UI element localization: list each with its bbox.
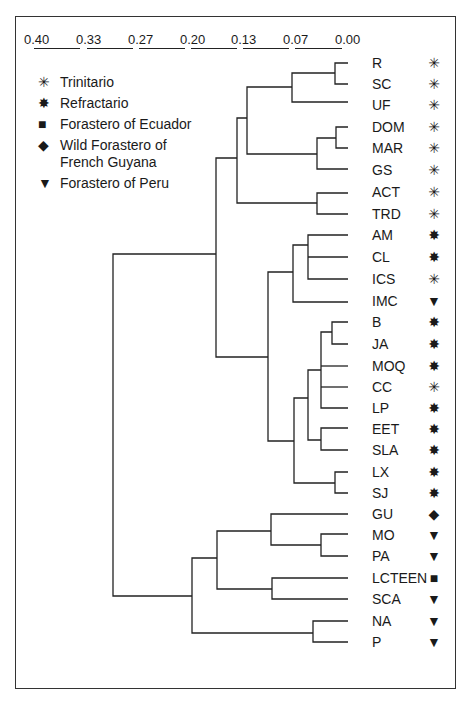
leaf-label-imc: IMC <box>372 293 398 309</box>
filled-star-icon: ✸ <box>426 314 442 330</box>
open-asterisk-icon: ✳ <box>426 206 442 222</box>
leaf-label-eet: EET <box>372 421 399 437</box>
open-asterisk-icon: ✳ <box>426 119 442 135</box>
leaf-label-ics: ICS <box>372 271 395 287</box>
leaf-label-cc: CC <box>372 379 392 395</box>
leaf-label-moq: MOQ <box>372 358 405 374</box>
leaf-label-mar: MAR <box>372 140 403 156</box>
leaf-label-cl: CL <box>372 249 390 265</box>
down-triangle-icon: ▼ <box>426 527 442 543</box>
down-triangle-icon: ▼ <box>426 613 442 629</box>
leaf-label-dom: DOM <box>372 119 405 135</box>
leaf-label-sc: SC <box>372 76 391 92</box>
filled-star-icon: ✸ <box>426 227 442 243</box>
leaf-label-mo: MO <box>372 527 395 543</box>
open-asterisk-icon: ✳ <box>426 162 442 178</box>
filled-star-icon: ✸ <box>426 249 442 265</box>
leaf-label-trd: TRD <box>372 206 401 222</box>
leaf-label-b: B <box>372 314 381 330</box>
down-triangle-icon: ▼ <box>426 548 442 564</box>
filled-star-icon: ✸ <box>426 464 442 480</box>
filled-star-icon: ✸ <box>426 421 442 437</box>
filled-star-icon: ✸ <box>426 485 442 501</box>
down-triangle-icon: ▼ <box>426 634 442 650</box>
leaf-label-sj: SJ <box>372 485 388 501</box>
open-asterisk-icon: ✳ <box>426 271 442 287</box>
open-asterisk-icon: ✳ <box>426 140 442 156</box>
filled-star-icon: ✸ <box>426 336 442 352</box>
leaf-label-sla: SLA <box>372 442 398 458</box>
leaf-label-r: R <box>372 55 382 71</box>
leaf-label-p: P <box>372 634 381 650</box>
leaf-label-sca: SCA <box>372 591 401 607</box>
down-triangle-icon: ▼ <box>426 591 442 607</box>
down-triangle-icon: ▼ <box>426 293 442 309</box>
leaf-label-uf: UF <box>372 97 391 113</box>
leaf-label-pa: PA <box>372 548 390 564</box>
leaf-label-na: NA <box>372 613 391 629</box>
leaf-label-lcteen: LCTEEN <box>372 570 427 586</box>
leaf-label-act: ACT <box>372 184 400 200</box>
leaf-label-ja: JA <box>372 336 388 352</box>
open-asterisk-icon: ✳ <box>426 97 442 113</box>
square-icon: ■ <box>426 570 442 586</box>
filled-star-icon: ✸ <box>426 400 442 416</box>
leaf-label-gs: GS <box>372 162 392 178</box>
diamond-icon: ◆ <box>426 506 442 522</box>
open-asterisk-icon: ✳ <box>426 184 442 200</box>
leaf-label-lp: LP <box>372 400 389 416</box>
filled-star-icon: ✸ <box>426 358 442 374</box>
leaf-label-lx: LX <box>372 464 389 480</box>
leaf-label-gu: GU <box>372 506 393 522</box>
open-asterisk-icon: ✳ <box>426 76 442 92</box>
leaf-label-am: AM <box>372 227 393 243</box>
filled-star-icon: ✸ <box>426 442 442 458</box>
open-asterisk-icon: ✳ <box>426 55 442 71</box>
open-asterisk-icon: ✳ <box>426 379 442 395</box>
